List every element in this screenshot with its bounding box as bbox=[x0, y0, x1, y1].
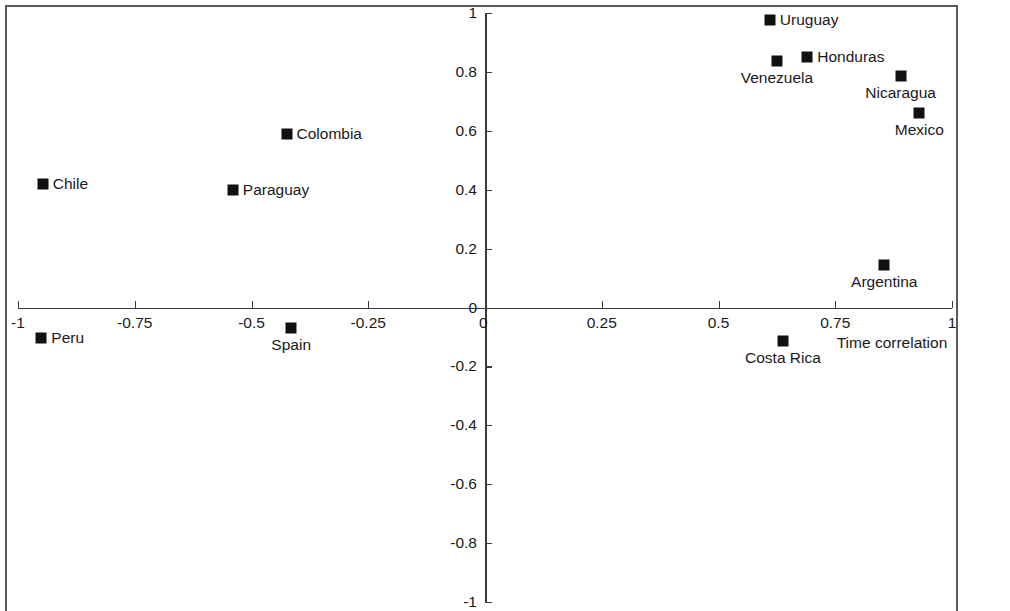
x-tick bbox=[135, 301, 136, 308]
y-tick-label: 0.4 bbox=[429, 182, 477, 198]
y-axis-line bbox=[485, 13, 487, 602]
x-tick bbox=[952, 301, 953, 308]
y-tick bbox=[485, 543, 492, 544]
data-point-marker[interactable] bbox=[777, 336, 788, 347]
x-tick-label: -1 bbox=[11, 315, 25, 331]
data-point-marker[interactable] bbox=[286, 322, 297, 333]
data-point-marker[interactable] bbox=[37, 179, 48, 190]
data-point-label: Uruguay bbox=[780, 13, 839, 29]
data-point-label: Spain bbox=[271, 337, 311, 353]
x-tick bbox=[18, 301, 19, 308]
plot-area: -1-0.75-0.5-0.2500.250.50.75110.80.60.40… bbox=[0, 0, 1010, 611]
x-tick bbox=[835, 301, 836, 308]
y-tick bbox=[485, 190, 492, 191]
data-point-marker[interactable] bbox=[281, 128, 292, 139]
y-tick-label: -0.4 bbox=[429, 418, 477, 434]
x-tick-label: -0.75 bbox=[117, 315, 152, 331]
data-point-marker[interactable] bbox=[227, 185, 238, 196]
y-tick bbox=[485, 131, 492, 132]
y-tick bbox=[485, 249, 492, 250]
data-point-marker[interactable] bbox=[914, 107, 925, 118]
data-point-label: Honduras bbox=[817, 49, 884, 65]
x-tick bbox=[719, 301, 720, 308]
y-tick-label: -0.2 bbox=[429, 359, 477, 375]
y-tick bbox=[485, 484, 492, 485]
data-point-label: Costa Rica bbox=[745, 350, 821, 366]
x-tick-label: 0.25 bbox=[587, 315, 617, 331]
x-tick-label: 0.5 bbox=[708, 315, 730, 331]
y-tick-label: 0.2 bbox=[429, 241, 477, 257]
x-tick bbox=[252, 301, 253, 308]
y-tick-label: 0.6 bbox=[429, 123, 477, 139]
data-point-label: Mexico bbox=[895, 122, 944, 138]
data-point-marker[interactable] bbox=[895, 71, 906, 82]
data-point-marker[interactable] bbox=[771, 55, 782, 66]
y-tick-label: -0.8 bbox=[429, 535, 477, 551]
scatter-plot-figure: -1-0.75-0.5-0.2500.250.50.75110.80.60.40… bbox=[0, 0, 1010, 611]
data-point-marker[interactable] bbox=[764, 15, 775, 26]
x-tick bbox=[485, 301, 486, 308]
y-tick bbox=[485, 602, 492, 603]
y-tick-label: 1 bbox=[429, 5, 477, 21]
x-tick bbox=[368, 301, 369, 308]
data-point-marker[interactable] bbox=[36, 333, 47, 344]
x-axis-title: Time correlation bbox=[837, 335, 948, 351]
x-tick-label: 0.75 bbox=[820, 315, 850, 331]
y-tick-label: -1 bbox=[429, 594, 477, 610]
data-point-label: Colombia bbox=[297, 126, 362, 142]
x-tick-label: -0.25 bbox=[351, 315, 386, 331]
x-tick-label: 1 bbox=[948, 315, 957, 331]
data-point-label: Nicaragua bbox=[865, 85, 936, 101]
x-tick bbox=[602, 301, 603, 308]
data-point-label: Venezuela bbox=[741, 70, 813, 86]
y-tick bbox=[485, 425, 492, 426]
y-tick-label: 0.8 bbox=[429, 64, 477, 80]
data-point-marker[interactable] bbox=[802, 51, 813, 62]
data-point-label: Argentina bbox=[851, 274, 917, 290]
data-point-label: Peru bbox=[51, 331, 84, 347]
y-tick-label: 0 bbox=[429, 300, 477, 316]
x-tick-label: 0 bbox=[479, 315, 488, 331]
y-tick bbox=[485, 72, 492, 73]
data-point-marker[interactable] bbox=[879, 260, 890, 271]
y-tick bbox=[485, 366, 492, 367]
x-tick-label: -0.5 bbox=[238, 315, 265, 331]
data-point-label: Paraguay bbox=[243, 183, 309, 199]
y-tick-label: -0.6 bbox=[429, 476, 477, 492]
data-point-label: Chile bbox=[53, 177, 88, 193]
y-tick bbox=[485, 13, 492, 14]
